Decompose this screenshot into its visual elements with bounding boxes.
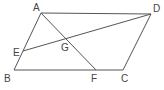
label-a: A [33,2,40,13]
label-g: G [61,42,69,53]
label-e: E [13,47,20,58]
geometry-diagram: A D B E G F C [0,0,164,90]
segment-dc [123,14,151,70]
label-f: F [91,73,97,84]
label-d: D [153,3,160,14]
segment-ba [14,13,41,70]
segment-ed [23,14,151,51]
label-b: B [4,73,11,84]
label-c: C [121,73,128,84]
segment-ad [41,13,151,14]
